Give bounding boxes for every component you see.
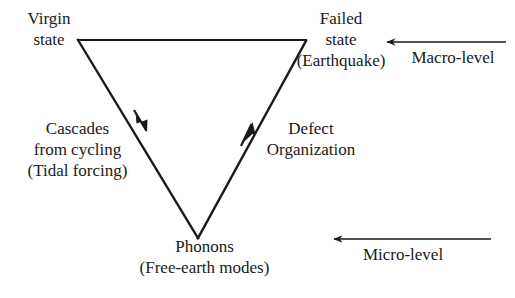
edge-label-cascades-line-1: Cascades	[10, 118, 145, 139]
node-label-failed-state-line-1: Failed	[278, 8, 404, 29]
node-label-virgin-state: Virgin state	[14, 8, 84, 50]
edge-label-defect-organization-line-1: Defect	[252, 118, 370, 139]
node-label-phonons: Phonons (Free-earth modes)	[112, 236, 297, 278]
annotation-label-micro-level: Micro-level	[348, 244, 458, 265]
node-label-virgin-state-line-2: state	[14, 29, 84, 50]
edge-label-cascades-line-3: (Tidal forcing)	[10, 160, 145, 181]
annotation-label-macro-level: Macro-level	[398, 47, 508, 68]
edge-label-defect-organization: Defect Organization	[252, 118, 370, 160]
edge-label-cascades-line-2: from cycling	[10, 139, 145, 160]
node-label-phonons-line-2: (Free-earth modes)	[112, 257, 297, 278]
node-label-failed-state-line-3: (Earthquake)	[278, 50, 404, 71]
figure-canvas: Virgin state Failed state (Earthquake) C…	[0, 0, 515, 298]
node-label-virgin-state-line-1: Virgin	[14, 8, 84, 29]
node-label-phonons-line-1: Phonons	[112, 236, 297, 257]
edge-label-cascades: Cascades from cycling (Tidal forcing)	[10, 118, 145, 181]
node-label-failed-state-line-2: state	[278, 29, 404, 50]
edge-label-defect-organization-line-2: Organization	[252, 139, 370, 160]
node-label-failed-state: Failed state (Earthquake)	[278, 8, 404, 71]
